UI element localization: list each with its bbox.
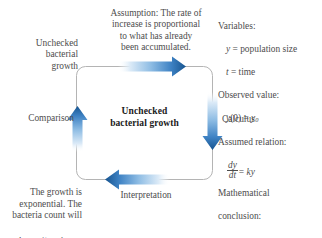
observed-value-equation: y(0) = y0	[218, 113, 320, 126]
bottom-arrow-interpretation	[105, 170, 170, 190]
variables-heading: Variables:	[218, 21, 320, 32]
assumed-relation-heading: Assumed relation:	[218, 137, 320, 148]
assumption-text: Assumption: The rate of increase is prop…	[92, 8, 220, 54]
math-model-panel: Variables: y = population size t = time …	[218, 10, 320, 192]
center-label: Unchecked bacterial growth	[76, 106, 213, 129]
mathematical-conclusion-heading-1: Mathematical	[218, 188, 318, 199]
observed-value-heading: Observed value:	[218, 90, 320, 101]
comparison-label: Comparison	[4, 113, 74, 124]
interpretation-label: Interpretation	[104, 190, 188, 201]
real-world-conclusion-text: The growth is exponential. The bacteria …	[2, 176, 82, 238]
mathematical-conclusion-heading-2: conclusion:	[218, 211, 318, 222]
top-arrow-assumption	[118, 57, 186, 77]
real-world-situation-text: Unchecked bacterial growth	[6, 38, 78, 72]
center-label-line2: bacterial growth	[110, 118, 179, 128]
center-label-line1: Unchecked	[122, 106, 168, 116]
variable-t-line: t = time	[218, 67, 320, 78]
real-world-conclusion-prose: The growth is exponential. The bacteria …	[12, 187, 82, 220]
mathematical-conclusion-formula: y = y0ekt	[218, 234, 318, 238]
mathematical-conclusion-panel: Mathematical conclusion: y = y0ekt	[218, 177, 318, 238]
real-world-conclusion-formula: be y0ekt at time t.	[19, 236, 82, 238]
variable-y-line: y = population size	[218, 44, 320, 55]
